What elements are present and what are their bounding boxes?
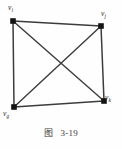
vertex-label-vg: vg xyxy=(3,110,9,118)
vertex-label-vk-sub: k xyxy=(109,97,111,103)
vertex-label-vj-sub: j xyxy=(105,13,107,19)
vertex-label-vk: vk xyxy=(105,94,111,102)
graph-svg xyxy=(0,0,122,124)
edge-vj-vk xyxy=(101,26,104,101)
vertex-node-vj xyxy=(98,23,104,29)
vertex-label-vg-base: v xyxy=(3,109,6,118)
edge-vg-vi xyxy=(13,21,14,107)
edge-group xyxy=(13,21,104,107)
caption-label: 图 xyxy=(44,128,54,138)
figure-container: vi vj vg vk 图3-19 xyxy=(0,0,122,149)
edge-vi-vj xyxy=(13,21,101,26)
caption-number: 3-19 xyxy=(60,128,78,138)
vertex-label-vi: vi xyxy=(8,4,13,12)
vertex-label-vj-base: v xyxy=(101,9,104,18)
vertex-node-vg xyxy=(11,104,17,110)
vertex-node-vi xyxy=(10,18,16,24)
vertex-label-vi-sub: i xyxy=(12,7,14,13)
edge-vk-vg xyxy=(14,101,104,107)
figure-caption: 图3-19 xyxy=(0,128,122,139)
vertex-label-vg-sub: g xyxy=(7,113,10,119)
vertex-label-vj: vj xyxy=(101,10,106,18)
edge-vi-vk-diagonal xyxy=(13,21,104,101)
graph-drawing-area: vi vj vg vk xyxy=(0,0,122,124)
edge-vj-vg-diagonal xyxy=(14,26,101,107)
vertex-label-vi-base: v xyxy=(8,3,11,12)
vertex-label-vk-base: v xyxy=(105,93,108,102)
